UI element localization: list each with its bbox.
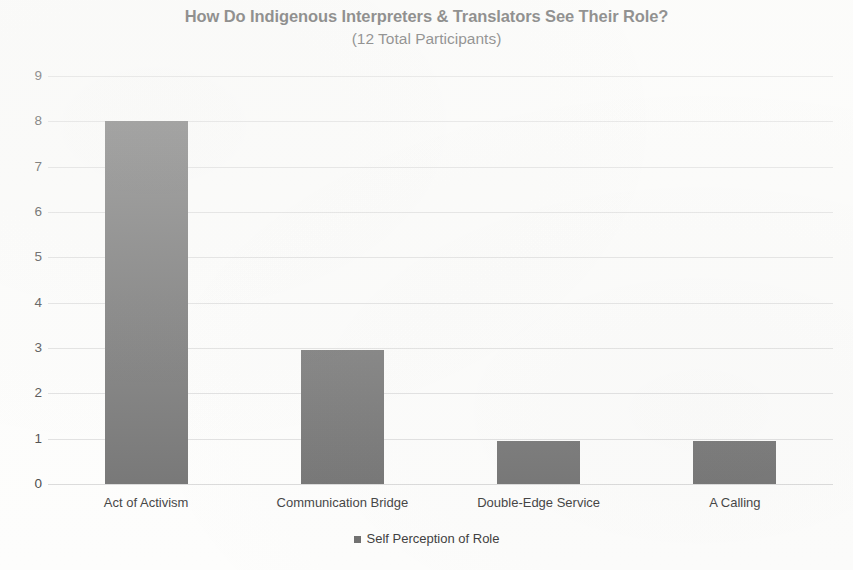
y-axis-tick-label: 9 (8, 69, 42, 82)
x-axis-tick-label: Act of Activism (48, 494, 244, 512)
y-axis-tick-label: 7 (8, 160, 42, 173)
y-axis-tick-label: 0 (8, 477, 42, 490)
square-marker-icon (354, 536, 361, 543)
y-axis-tick-label: 6 (8, 205, 42, 218)
page-title: How Do Indigenous Interpreters & Transla… (0, 6, 853, 26)
chart-title-block: How Do Indigenous Interpreters & Transla… (0, 6, 853, 49)
y-axis-tick-label: 3 (8, 341, 42, 354)
legend-item-label: Self Perception of Role (367, 531, 500, 547)
y-axis-tick-label: 1 (8, 432, 42, 445)
y-axis-tick-label: 5 (8, 250, 42, 263)
y-axis-tick-label: 2 (8, 386, 42, 399)
x-axis-tick-label: Double-Edge Service (441, 494, 637, 512)
bar-chart-figure: How Do Indigenous Interpreters & Transla… (0, 0, 853, 570)
gridline (48, 484, 833, 485)
x-axis-tick-label: Communication Bridge (244, 494, 440, 512)
bars-layer (48, 76, 833, 484)
y-axis-tick-label: 4 (8, 296, 42, 309)
chart-legend: Self Perception of Role (0, 531, 853, 547)
bar[interactable] (301, 350, 384, 484)
x-axis-tick-label: A Calling (637, 494, 833, 512)
bar[interactable] (105, 121, 188, 484)
y-axis-tick-label: 8 (8, 114, 42, 127)
chart-subtitle: (12 Total Participants) (0, 28, 853, 49)
y-axis: 9876543210 (0, 76, 42, 484)
x-axis: Act of ActivismCommunication BridgeDoubl… (48, 494, 833, 516)
bar[interactable] (693, 441, 776, 484)
bar[interactable] (497, 441, 580, 484)
